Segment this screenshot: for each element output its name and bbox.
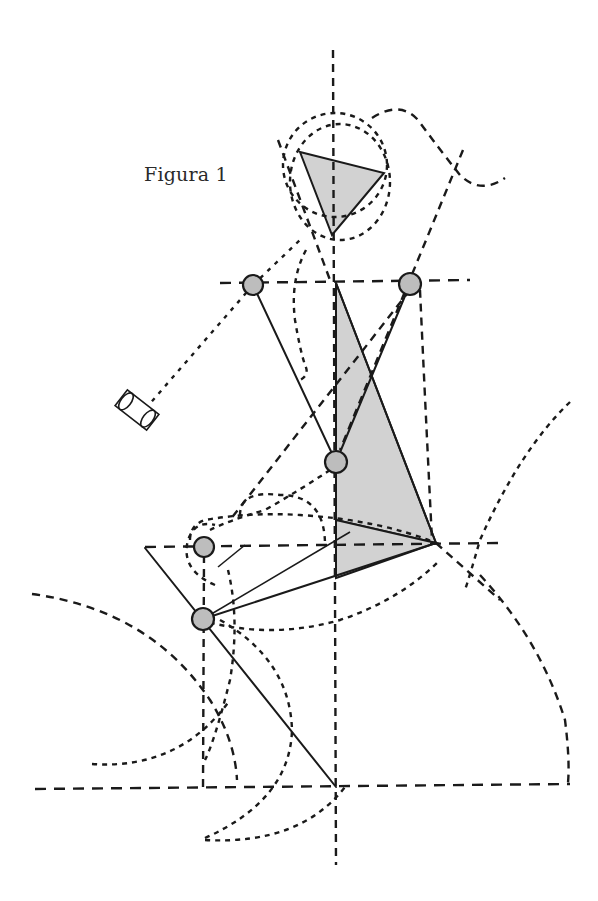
- right-side-line: [420, 290, 432, 540]
- joint-pelvis: [325, 451, 347, 473]
- hip-vertical: [203, 555, 204, 790]
- abdomen-curve: [210, 470, 330, 530]
- knee-curve: [205, 570, 235, 760]
- hip-arc-lower: [200, 560, 440, 630]
- ground-line: [35, 784, 570, 789]
- joint-left-hip: [194, 537, 214, 557]
- right-upper-arc: [465, 402, 570, 590]
- construction-diagram: [0, 0, 598, 901]
- diagram-canvas: Figura 1: [0, 0, 598, 901]
- leg-arc: [205, 620, 292, 838]
- hip-short-line: [218, 545, 245, 567]
- joint-left-shoulder: [243, 275, 263, 295]
- right-large-arc: [480, 575, 569, 783]
- hair-curve: [372, 109, 505, 185]
- left-lower-arc: [92, 700, 230, 764]
- joint-right-shoulder: [399, 273, 421, 295]
- hand-cylinder-icon: [115, 390, 159, 430]
- back-curve: [294, 250, 307, 380]
- bottom-arc: [205, 787, 345, 840]
- joint-knee: [192, 608, 214, 630]
- thigh-line: [203, 543, 436, 619]
- shin-line: [145, 548, 336, 787]
- head-triangle: [300, 152, 384, 235]
- forearm-dotted: [140, 285, 253, 415]
- saddle-curve: [240, 494, 325, 545]
- hip-right-diagonal: [436, 543, 500, 600]
